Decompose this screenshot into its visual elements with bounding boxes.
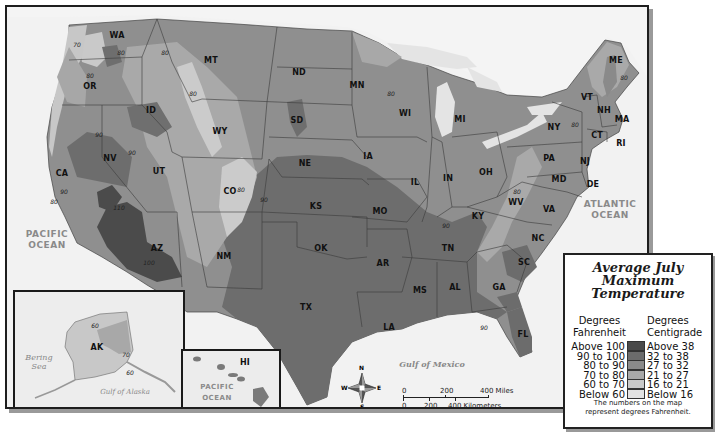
isotherm-label: 90 [60,188,68,195]
state-label-pa: PA [543,154,555,163]
legend-centigrade: Below 16 [647,389,693,400]
state-label-al: AL [449,283,461,292]
isotherm-label: 90 [480,324,488,331]
hawaii-inset: HI PACIFIC OCEAN [181,349,281,409]
isotherm-label: 110 [113,204,124,211]
isotherm-label: 90 [95,131,103,138]
atlantic-line-2: OCEAN [584,210,637,221]
state-label-id: ID [146,106,156,115]
isotherm-label: 80 [189,90,197,97]
state-label-ca: CA [56,169,68,178]
scale-tick [488,395,489,398]
state-label-va: VA [543,205,555,214]
legend-note-line-2: represent degrees Fahrenheit. [565,408,711,417]
legend-swatch [627,341,645,351]
gulf-of-mexico-label: Gulf of Mexico [399,360,464,369]
state-label-mn: MN [349,81,364,90]
state-label-de: DE [587,180,600,189]
scale-km-200: 200 [424,402,437,409]
legend-note: The numbers on the map represent degrees… [565,399,711,417]
state-label-az: AZ [151,244,163,253]
isotherm-label: 80 [387,90,395,97]
isotherm-label: 100 [143,259,154,266]
legend-swatch [627,379,645,389]
state-label-wa: WA [109,31,124,40]
state-label-wy: WY [212,127,227,136]
isotherm-label: 60 [91,322,99,329]
state-label-co: CO [223,187,236,196]
state-label-mi: MI [454,115,465,124]
isotherm-label: 80 [117,49,125,56]
state-label-tx: TX [300,303,312,312]
state-label-wi: WI [399,109,411,118]
state-label-nj: NJ [580,157,590,166]
state-label-in: IN [443,174,453,183]
compass-rose: N S E W [345,367,379,409]
legend-fahrenheit: Below 60 [579,389,625,400]
hawaii-label: HI [240,358,250,367]
fahrenheit-header: Degrees Fahrenheit [573,315,626,339]
state-label-or: OR [83,82,96,91]
state-label-ia: IA [363,152,373,161]
state-label-mo: MO [372,207,387,216]
alaska-label: AK [91,343,104,352]
gulf-of-alaska-label: Gulf of Alaska [100,388,150,397]
state-label-ri: RI [616,139,626,148]
bering-line-1: Bering [25,353,52,362]
isotherm-label: 90 [128,149,136,156]
state-label-tn: TN [442,244,455,253]
compass-s: S [360,403,364,409]
legend-swatch [627,351,645,361]
legend-swatch [627,360,645,370]
state-label-vt: VT [581,93,593,102]
state-label-ct: CT [591,131,603,140]
state-label-ut: UT [153,167,165,176]
scale-miles-400: 400 Miles [480,387,513,395]
legend-title: Average July Maximum Temperature [565,261,711,300]
atlantic-line-1: ATLANTIC [584,199,637,210]
state-label-ky: KY [472,212,484,221]
pacific-ocean-label: PACIFIC OCEAN [26,229,68,251]
centigrade-header: Degrees Centigrade [647,315,702,339]
state-label-wv: WV [508,198,523,207]
state-label-ma: MA [615,115,630,124]
legend-swatch [627,389,645,399]
alaska-inset: AK Bering Sea Gulf of Alaska 607060 [13,290,185,409]
state-label-ks: KS [310,202,322,211]
isotherm-label: 80 [571,121,579,128]
isotherm-label: 80 [513,188,521,195]
isotherm-label: 80 [161,49,169,56]
legend: Average July Maximum Temperature Degrees… [563,253,713,429]
compass-n: N [359,364,364,371]
state-label-md: MD [551,175,566,184]
scale-bar: 0 200 400 Miles 0 200 400 Kilometers [402,387,552,409]
atlantic-ocean-label: ATLANTIC OCEAN [584,199,637,221]
isotherm-label: 80 [86,72,94,79]
scale-tick [429,398,430,401]
state-label-nv: NV [103,154,116,163]
scale-tick [403,395,404,401]
scale-km-0: 0 [402,402,406,409]
legend-title-line-3: Temperature [565,287,711,300]
state-label-il: IL [411,178,419,187]
bering-line-2: Sea [25,362,52,371]
isotherm-label: 80 [50,198,58,205]
state-label-nh: NH [597,106,611,115]
centigrade-header-line-1: Degrees [647,315,702,327]
state-label-oh: OH [479,168,493,177]
isotherm-label: 90 [260,196,268,203]
state-label-ne: NE [299,159,312,168]
fahrenheit-header-line-2: Fahrenheit [573,327,626,339]
legend-note-line-1: The numbers on the map [565,399,711,408]
bering-sea-label: Bering Sea [25,353,52,371]
legend-swatch [627,370,645,380]
scale-miles-200: 200 [440,387,453,395]
state-label-ms: MS [413,286,427,295]
scale-tick [455,398,456,401]
hawaii-pacific-label: PACIFIC OCEAN [186,382,248,404]
compass-w: W [341,384,348,391]
isotherm-label: 70 [73,41,81,48]
scale-tick [445,395,446,398]
state-label-sd: SD [291,116,304,125]
fahrenheit-header-line-1: Degrees [573,315,626,327]
